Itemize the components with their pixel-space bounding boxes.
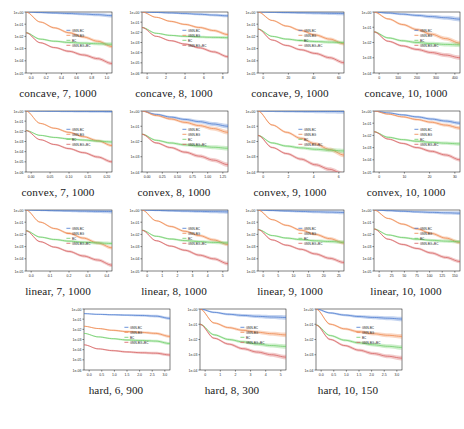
y-tick-label: 1e-04 bbox=[130, 171, 139, 175]
x-tick-label: 2 bbox=[176, 274, 178, 278]
figure-cell: 1e+001e-011e-021e-031e-041e-051e-060.00.… bbox=[58, 303, 174, 402]
y-tick-label: 1e+00 bbox=[14, 209, 24, 213]
x-tick-label: 0 bbox=[146, 274, 148, 278]
y-tick-label: 1e-05 bbox=[246, 72, 255, 76]
panel-wrap: 1e+001e-011e-021e-031e-041e-051e-0602468… bbox=[116, 6, 232, 86]
figure-cell: 1e+001e-011e-021e-031e-041e-050510152025… bbox=[232, 204, 348, 303]
y-tick-label: 1e-01 bbox=[246, 125, 255, 129]
legend-label: GNN-BC bbox=[304, 227, 317, 231]
panel-wrap: 1e+001e-011e-021e-031e-041e-051e-060.000… bbox=[0, 105, 116, 185]
x-tick-label: 20 bbox=[322, 274, 326, 278]
legend-label: GNN-BG bbox=[304, 34, 317, 38]
legend-label: BC bbox=[188, 237, 193, 241]
x-tick-label: 2.5 bbox=[382, 373, 387, 377]
y-tick-label: 1e-03 bbox=[246, 47, 255, 51]
x-tick-label: 0.2 bbox=[44, 76, 49, 80]
x-tick-label: 1.00 bbox=[204, 175, 211, 179]
legend-label: GNN-BG+BC bbox=[72, 44, 91, 48]
figure-cell: 1e+001e-011e-021e-031e-040.000.250.500.7… bbox=[116, 105, 232, 204]
x-tick-label: 0.3 bbox=[85, 274, 90, 278]
plot-panel: 1e+001e-011e-021e-031e-040246GNN-BCGNN-B… bbox=[232, 105, 348, 185]
series-band bbox=[316, 308, 402, 321]
legend-label: GNN-BC bbox=[72, 227, 85, 231]
y-tick-label: 1e-01 bbox=[14, 23, 23, 27]
y-tick-label: 1e-03 bbox=[304, 353, 313, 357]
panel-caption: convex, 7, 1000 bbox=[22, 186, 95, 198]
legend-label: BC bbox=[420, 138, 425, 142]
legend-label: BC bbox=[304, 39, 309, 43]
x-tick-label: 0.6 bbox=[74, 76, 79, 80]
x-tick-label: 2 bbox=[287, 175, 289, 179]
x-tick-label: 0.0 bbox=[87, 373, 92, 377]
panel-wrap: 1e+001e-011e-021e-031e-041e-050204060GNN… bbox=[232, 6, 348, 86]
figure-cell: 1e+001e-011e-021e-031e-041e-050204060GNN… bbox=[232, 6, 348, 105]
legend-label: GNN-BC bbox=[188, 128, 201, 132]
legend-label: BC bbox=[362, 336, 367, 340]
y-tick-label: 1e-02 bbox=[246, 140, 255, 144]
legend-label: GNN-BC bbox=[188, 29, 201, 33]
x-tick-label: 0 bbox=[378, 175, 380, 179]
plot-panel: 1e+001e-011e-021e-031e-041e-051e-060.00.… bbox=[58, 303, 174, 383]
y-tick-label: 1e+00 bbox=[362, 110, 372, 114]
plot-panel: 1e+001e-011e-021e-031e-040100200300400GN… bbox=[348, 6, 464, 86]
legend-label: GNN-BG+BC bbox=[304, 242, 323, 246]
y-tick-label: 1e+00 bbox=[246, 11, 256, 15]
y-tick-label: 1e-04 bbox=[362, 72, 371, 76]
panel-wrap: 1e+001e-011e-021e-031e-041e-050102030GNN… bbox=[348, 105, 464, 185]
x-tick-label: 60 bbox=[337, 76, 341, 80]
y-tick-label: 1e+00 bbox=[188, 308, 198, 312]
series-line bbox=[142, 230, 228, 263]
x-tick-label: 2 bbox=[234, 373, 236, 377]
legend-label: GNN-BG bbox=[420, 232, 433, 236]
legend-label: GNN-BG+BC bbox=[362, 341, 381, 345]
legend-label: GNN-BG bbox=[304, 133, 317, 137]
series-line bbox=[26, 231, 112, 265]
y-tick-label: 1e-03 bbox=[362, 245, 371, 249]
legend-label: GNN-BC bbox=[420, 128, 433, 132]
y-tick-label: 1e-04 bbox=[72, 348, 81, 352]
series-band bbox=[258, 135, 344, 175]
y-tick-label: 1e-03 bbox=[14, 245, 23, 249]
legend-label: BC bbox=[72, 237, 77, 241]
plot-panel: 1e+001e-011e-021e-031e-041e-051e-060.000… bbox=[0, 105, 116, 185]
y-tick-label: 1e-02 bbox=[246, 35, 255, 39]
legend-label: GNN-BG bbox=[72, 34, 85, 38]
legend-label: GNN-BC bbox=[72, 128, 85, 132]
legend-label: BC bbox=[130, 336, 135, 340]
y-tick-label: 1e-04 bbox=[362, 257, 371, 261]
plot-panel: 1e+001e-011e-021e-031e-041e-051e-0602468… bbox=[116, 6, 232, 86]
x-tick-label: 25 bbox=[337, 274, 341, 278]
plot-panel: 1e+001e-011e-021e-031e-041e-050255075100… bbox=[348, 204, 464, 284]
y-tick-label: 1e+00 bbox=[72, 308, 82, 312]
x-tick-label: 0.20 bbox=[103, 175, 110, 179]
y-tick-label: 1e-01 bbox=[130, 125, 139, 129]
y-tick-label: 1e-04 bbox=[130, 257, 139, 261]
legend-label: GNN-BC bbox=[130, 326, 143, 330]
y-tick-label: 1e+00 bbox=[362, 209, 372, 213]
legend-label: GNN-BG bbox=[362, 331, 375, 335]
x-tick-label: 2 bbox=[165, 76, 167, 80]
y-tick-label: 1e-01 bbox=[72, 318, 81, 322]
x-tick-label: 0.0 bbox=[29, 274, 34, 278]
y-tick-label: 1e-05 bbox=[130, 270, 139, 274]
y-tick-label: 1e-02 bbox=[188, 338, 197, 342]
figure-cell: 1e+001e-011e-021e-031e-041e-050.00.20.40… bbox=[0, 6, 116, 105]
legend-label: GNN-BG bbox=[188, 34, 201, 38]
y-tick-label: 1e-05 bbox=[362, 171, 371, 175]
y-tick-label: 1e+00 bbox=[130, 11, 140, 15]
y-tick-label: 1e-01 bbox=[14, 221, 23, 225]
y-tick-label: 1e+00 bbox=[304, 308, 314, 312]
x-tick-label: 0.00 bbox=[144, 175, 151, 179]
y-tick-label: 1e-02 bbox=[304, 338, 313, 342]
legend-label: BC bbox=[188, 138, 193, 142]
legend-label: GNN-BG+BC bbox=[420, 143, 439, 147]
panel-caption: linear, 10, 1000 bbox=[370, 285, 441, 297]
x-tick-label: 0 bbox=[378, 274, 380, 278]
x-tick-label: 0.1 bbox=[48, 274, 53, 278]
x-tick-label: 0 bbox=[262, 274, 264, 278]
y-tick-label: 1e-02 bbox=[14, 130, 23, 134]
legend-label: BC bbox=[420, 237, 425, 241]
y-tick-label: 1e-04 bbox=[246, 171, 255, 175]
y-tick-label: 1e-03 bbox=[130, 155, 139, 159]
panel-caption: concave, 10, 1000 bbox=[364, 87, 447, 99]
